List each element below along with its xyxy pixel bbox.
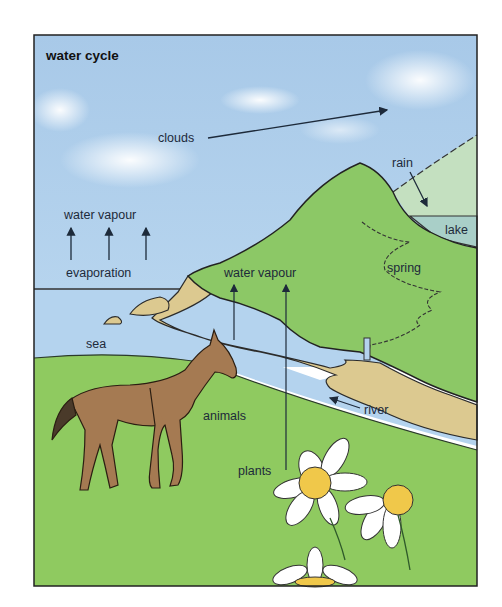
label-animals: animals (203, 410, 246, 423)
label-evaporation: evaporation (66, 267, 131, 280)
water-cycle-illustration (0, 0, 502, 607)
label-water-vapour-land: water vapour (224, 267, 296, 280)
label-water-vapour-sea: water vapour (64, 209, 136, 222)
spring-outflow (364, 338, 370, 360)
label-river: river (364, 404, 388, 417)
label-lake: lake (445, 224, 468, 237)
label-sea: sea (86, 338, 106, 351)
label-spring: spring (387, 262, 421, 275)
diagram-title: water cycle (46, 49, 119, 63)
label-rain: rain (392, 157, 413, 170)
label-clouds: clouds (158, 132, 194, 145)
label-plants: plants (238, 465, 271, 478)
